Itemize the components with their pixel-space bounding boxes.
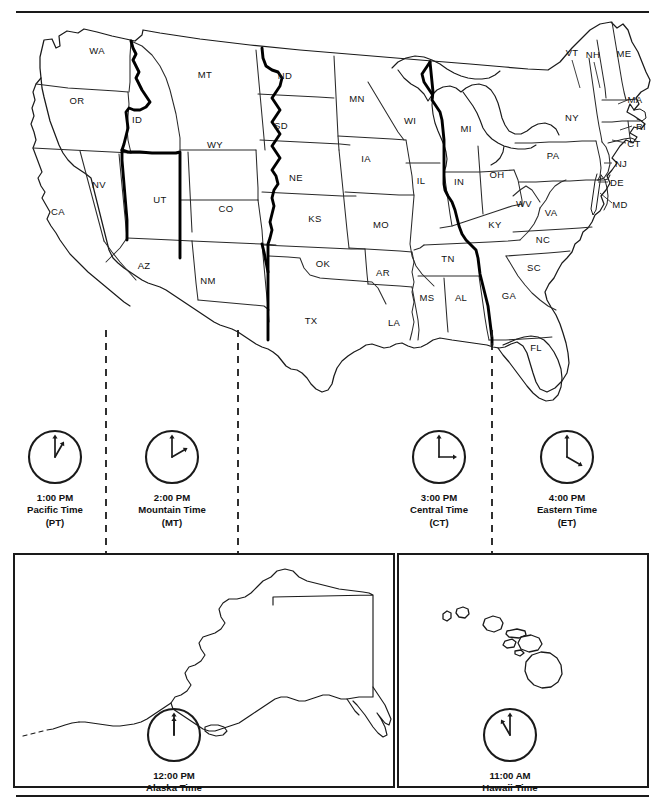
time-zone-map-page: WAORIDMTNDSDMNWIMIWYNEIAILINOHNVUTCOKSMO…: [0, 0, 665, 809]
clock-caption-hawaii: 11:00 AMHawaii Time: [482, 770, 537, 795]
clock-zone-hawaii: Hawaii Time: [482, 782, 537, 794]
hawaii-lanai: [503, 639, 516, 648]
clock-code-eastern: (ET): [537, 517, 597, 529]
clock-time-central: 3:00 PM: [410, 492, 468, 504]
clock-time-mountain: 2:00 PM: [138, 492, 206, 504]
clock-code-central: (CT): [410, 517, 468, 529]
clock-hour-hand-arrow: [453, 454, 457, 459]
clock-minute-hand-arrow: [507, 713, 512, 717]
bottom-divider-rule: [16, 795, 649, 797]
clock-alaska: [145, 706, 203, 764]
clock-hour-hand: [567, 457, 580, 465]
clock-zone-alaska: Alaska Time: [146, 782, 202, 794]
clock-caption-pacific: 1:00 PMPacific Time(PT): [27, 492, 83, 529]
clock-caption-mountain: 2:00 PMMountain Time(MT): [138, 492, 206, 529]
clock-minute-hand-arrow: [171, 713, 176, 717]
clock-central: [410, 428, 468, 486]
clock-caption-central: 3:00 PMCentral Time(CT): [410, 492, 468, 529]
hawaii-big-island: [525, 652, 562, 688]
hawaii-oahu: [483, 616, 503, 632]
clock-time-eastern: 4:00 PM: [537, 492, 597, 504]
clock-code-pacific: (PT): [27, 517, 83, 529]
hawaii-kauai: [456, 607, 469, 618]
clock-zone-eastern: Eastern Time: [537, 504, 597, 516]
clock-pacific: [26, 428, 84, 486]
clock-hour-hand-arrow: [171, 717, 176, 721]
clock-hour-hand: [503, 722, 511, 735]
alaska-inset-panel: [13, 553, 395, 788]
clock-code-mountain: (MT): [138, 517, 206, 529]
clock-time-alaska: 12:00 PM: [146, 770, 202, 782]
clock-mountain: [143, 428, 201, 486]
hawaii-niihau: [443, 611, 451, 621]
clock-time-hawaii: 11:00 AM: [482, 770, 537, 782]
aleutian-chain: [23, 722, 79, 736]
clock-caption-alaska: 12:00 PMAlaska Time: [146, 770, 202, 795]
clock-minute-hand-arrow: [169, 435, 174, 439]
clock-caption-eastern: 4:00 PMEastern Time(ET): [537, 492, 597, 529]
hawaii-kahoolawe: [515, 650, 524, 656]
clock-minute-hand-arrow: [564, 435, 569, 439]
clock-hour-hand: [172, 450, 185, 458]
alaska-panhandle: [353, 687, 391, 737]
clock-hour-hand: [55, 444, 63, 457]
clock-minute-hand-arrow: [436, 435, 441, 439]
clock-zone-mountain: Mountain Time: [138, 504, 206, 516]
clock-time-pacific: 1:00 PM: [27, 492, 83, 504]
clock-zone-central: Central Time: [410, 504, 468, 516]
clock-hawaii: [481, 706, 539, 764]
clock-zone-pacific: Pacific Time: [27, 504, 83, 516]
clock-minute-hand-arrow: [52, 435, 57, 439]
clock-eastern: [538, 428, 596, 486]
